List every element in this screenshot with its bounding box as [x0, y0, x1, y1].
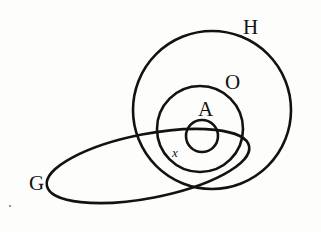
- venn-diagram-svg: [0, 0, 321, 232]
- label-g: G: [29, 173, 44, 194]
- set-diagram-canvas: H O A x G: [0, 0, 321, 232]
- label-x-point: x: [172, 146, 178, 159]
- scan-speck: [9, 205, 11, 207]
- label-o: O: [225, 72, 240, 93]
- circle-a-outline: [186, 120, 218, 152]
- label-h: H: [243, 17, 258, 38]
- label-a: A: [198, 99, 213, 120]
